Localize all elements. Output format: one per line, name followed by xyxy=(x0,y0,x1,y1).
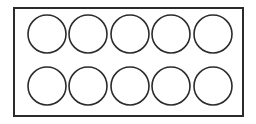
circle-r2-c3 xyxy=(111,67,149,105)
circle-r2-c4 xyxy=(152,67,190,105)
circle-r2-c1 xyxy=(28,67,66,105)
circle-r1-c2 xyxy=(69,15,107,53)
circle-r1-c1 xyxy=(28,15,66,53)
circle-r1-c5 xyxy=(194,15,232,53)
circle-r1-c3 xyxy=(111,15,149,53)
figure-root xyxy=(0,0,256,124)
circle-r2-c5 xyxy=(194,67,232,105)
circle-r1-c4 xyxy=(152,15,190,53)
circle-r2-c2 xyxy=(69,67,107,105)
ten-circles-diagram xyxy=(0,0,256,124)
